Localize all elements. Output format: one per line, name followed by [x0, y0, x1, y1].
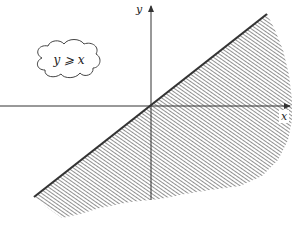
inequality-diagram	[0, 0, 299, 230]
inequality-label: y ⩾ x	[49, 53, 89, 67]
x-axis-label: x	[279, 110, 289, 123]
y-axis-label: y	[136, 3, 142, 16]
